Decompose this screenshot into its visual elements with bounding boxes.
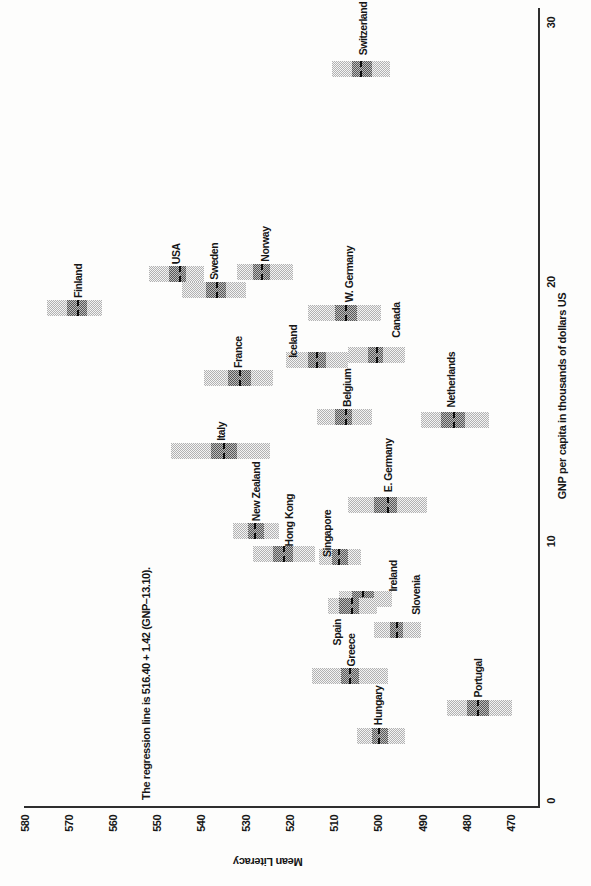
mean-dashed-line [387, 497, 389, 513]
regression-annotation: The regression line is 516.40 + 1.42 (GN… [140, 567, 152, 800]
y-axis-tick-label: 570 [63, 815, 75, 849]
ci-outer-box [332, 61, 389, 77]
x-axis-tick-label: 30 [545, 8, 557, 38]
country-label: Netherlands [445, 352, 457, 408]
ci-inner-box [372, 728, 387, 744]
mean-dashed-line [316, 352, 318, 368]
ci-outer-box [204, 370, 273, 386]
y-axis-tick-label: 560 [107, 815, 119, 849]
mean-dashed-line [360, 61, 362, 77]
ci-inner-box [169, 266, 187, 282]
x-axis-tick-label: 10 [545, 527, 557, 557]
y-axis-tick-label: 580 [19, 815, 31, 849]
mean-dashed-line [223, 443, 225, 459]
x-axis-tick-label: 20 [545, 267, 557, 297]
ci-outer-box [348, 347, 405, 363]
mean-dashed-line [338, 549, 340, 565]
y-axis-tick-label: 530 [240, 815, 252, 849]
country-label: Ireland [387, 560, 399, 591]
y-axis-tick-label: 520 [284, 815, 296, 849]
country-label: Slovenia [410, 575, 422, 615]
ci-inner-box [248, 523, 263, 539]
x-axis-title: GNP per capita in thousands of dollars U… [556, 293, 568, 500]
ci-outer-box [253, 546, 315, 562]
country-label: Iceland [287, 325, 299, 358]
country-label: Belgium [341, 369, 353, 407]
ci-outer-box [182, 282, 246, 298]
y-axis-line [24, 806, 540, 808]
ci-outer-box [374, 622, 420, 638]
ci-outer-box [328, 598, 377, 614]
ci-outer-box [171, 443, 271, 459]
country-label: France [232, 336, 244, 368]
country-label: Finland [72, 264, 84, 298]
y-axis-tick-label: 500 [372, 815, 384, 849]
country-label: W. Germany [343, 246, 355, 302]
ci-inner-box [332, 549, 347, 565]
y-axis-tick-label: 550 [151, 815, 163, 849]
country-label: Norway [259, 226, 271, 261]
country-label: Singapore [321, 510, 333, 557]
ci-outer-box [237, 264, 292, 280]
ci-outer-box [447, 700, 511, 716]
mean-dashed-line [345, 305, 347, 321]
ci-inner-box [339, 598, 359, 614]
mean-dashed-line [261, 264, 263, 280]
mean-dashed-line [349, 668, 351, 684]
mean-dashed-line [396, 622, 398, 638]
scanned-figure-page: { "figure": { "regression_note": "The re… [0, 0, 591, 886]
country-label: New Zealand [250, 462, 262, 521]
ci-outer-box [421, 412, 490, 428]
ci-outer-box [308, 305, 381, 321]
ci-outer-box [47, 300, 102, 316]
y-axis-tick-label: 510 [328, 815, 340, 849]
mean-dashed-line [345, 409, 347, 425]
x-axis-line [538, 8, 540, 808]
mean-dashed-line [453, 412, 455, 428]
mean-dashed-line [378, 728, 380, 744]
ci-outer-box [317, 409, 372, 425]
country-label: Greece [345, 634, 357, 667]
rotated-chart-canvas: The regression line is 516.40 + 1.42 (GN… [0, 0, 591, 886]
country-label: Spain [331, 619, 343, 645]
mean-dashed-line [283, 546, 285, 562]
mean-dashed-line [239, 370, 241, 386]
ci-outer-box [149, 266, 204, 282]
country-label: Hong Kong [283, 494, 295, 547]
y-axis-tick-label: 480 [461, 815, 473, 849]
y-axis-tick-label: 490 [417, 815, 429, 849]
y-axis-title: Mean Literacy [233, 856, 302, 868]
mean-dashed-line [376, 347, 378, 363]
mean-dashed-line [216, 282, 218, 298]
ci-outer-box [357, 728, 406, 744]
country-label: Portugal [472, 659, 484, 698]
ci-outer-box [348, 497, 428, 513]
x-axis-tick-label: 0 [545, 786, 557, 816]
mean-dashed-line [77, 300, 79, 316]
country-label: Italy [215, 422, 227, 441]
mean-dashed-line [477, 700, 479, 716]
country-label: USA [170, 243, 182, 264]
country-label: Hungary [372, 686, 384, 725]
ci-outer-box [312, 668, 387, 684]
ci-inner-box [374, 497, 396, 513]
ci-inner-box [352, 61, 372, 77]
mean-dashed-line [179, 266, 181, 282]
mean-dashed-line [254, 523, 256, 539]
y-axis-tick-label: 470 [505, 815, 517, 849]
ci-inner-box [335, 409, 353, 425]
country-label: E. Germany [382, 438, 394, 492]
ci-outer-box [233, 523, 279, 539]
mean-dashed-line [351, 598, 353, 614]
y-axis-tick-label: 540 [195, 815, 207, 849]
country-label: Switzerland [357, 2, 369, 55]
country-label: Canada [390, 302, 402, 337]
country-label: Sweden [208, 243, 220, 280]
